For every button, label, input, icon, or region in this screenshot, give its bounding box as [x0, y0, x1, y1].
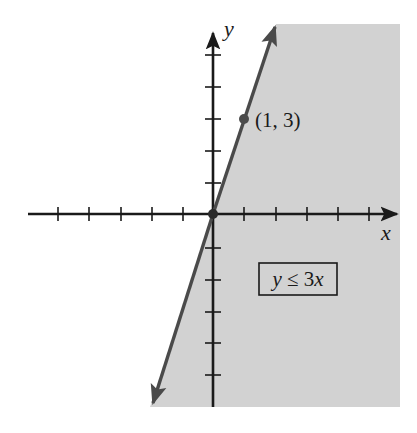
- x-axis-label: x: [380, 220, 391, 245]
- point-1-3: [239, 114, 249, 124]
- inequality-operator: ≤ 3: [282, 267, 315, 291]
- svg-text:y ≤ 3x: y ≤ 3x: [270, 267, 324, 291]
- point-label: (1, 3): [255, 108, 301, 132]
- origin-point: [208, 209, 218, 219]
- inequality-var-y: y: [270, 267, 282, 291]
- inequality-var-x: x: [313, 267, 324, 291]
- shaded-region: [150, 24, 400, 407]
- y-axis-label: y: [222, 16, 234, 41]
- inequality-graph: (1, 3) y x y ≤ 3x: [0, 0, 417, 433]
- graph-canvas: (1, 3) y x y ≤ 3x: [0, 0, 417, 433]
